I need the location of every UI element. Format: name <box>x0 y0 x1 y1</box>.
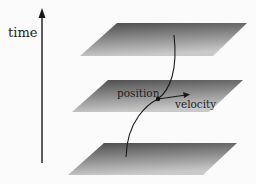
time-label: time <box>8 25 38 40</box>
plane-bottom <box>68 143 237 175</box>
position-label: position <box>117 87 160 99</box>
spacetime-diagram: time position velocity <box>0 0 256 184</box>
diagram-svg: time position velocity <box>0 0 256 184</box>
velocity-label: velocity <box>174 98 216 110</box>
arrowhead-icon <box>39 8 46 18</box>
plane-top <box>80 23 247 56</box>
